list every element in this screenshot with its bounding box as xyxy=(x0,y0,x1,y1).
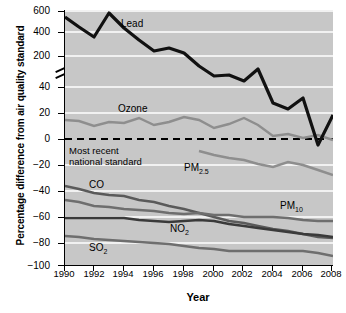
y-tick-m20: −20 xyxy=(4,160,50,170)
y-tick-20: 20 xyxy=(4,108,50,118)
standard-note-line-2: national standard xyxy=(69,156,142,167)
series-label-so2-sub: 2 xyxy=(103,248,107,255)
y-tick-m60: −60 xyxy=(4,212,50,222)
y-tick-m80: −80 xyxy=(4,238,50,248)
series-label-pm25: PM2.5 xyxy=(184,162,209,175)
y-tick-m40: −40 xyxy=(4,186,50,196)
y-tick-200: 200 xyxy=(4,51,50,61)
series-label-lead: Lead xyxy=(121,18,143,29)
series-label-pm10-sub: 10 xyxy=(295,206,303,213)
series-canvas xyxy=(65,10,333,265)
series-label-no2: NO2 xyxy=(170,223,189,236)
y-tick-0: 0 xyxy=(4,134,50,144)
series-label-pm10: PM10 xyxy=(280,200,303,213)
series-label-no2-sub: 2 xyxy=(185,229,189,236)
y-tick-40: 40 xyxy=(4,82,50,92)
series-label-ozone: Ozone xyxy=(118,103,147,114)
y-tick-600: 600 xyxy=(4,6,50,16)
series-label-no2-main: NO xyxy=(170,223,185,234)
series-line-pm25 xyxy=(199,151,333,175)
x-tick-2008: 2008 xyxy=(311,268,346,279)
series-label-co: CO xyxy=(89,179,104,190)
series-label-so2: SO2 xyxy=(89,242,107,255)
series-line-no2 xyxy=(65,218,333,237)
series-label-pm25-sub: 2.5 xyxy=(199,168,209,175)
standard-note-line-1: Most recent xyxy=(69,145,119,156)
series-label-pm25-main: PM xyxy=(184,162,199,173)
y-tick-400: 400 xyxy=(4,27,50,37)
x-axis-title: Year xyxy=(64,291,332,303)
standard-note: Most recent national standard xyxy=(69,145,142,167)
series-label-pm10-main: PM xyxy=(280,200,295,211)
series-line-ozone xyxy=(65,117,333,140)
plot-area: Lead Ozone Most recent national standard… xyxy=(64,10,333,266)
series-label-so2-main: SO xyxy=(89,242,103,253)
